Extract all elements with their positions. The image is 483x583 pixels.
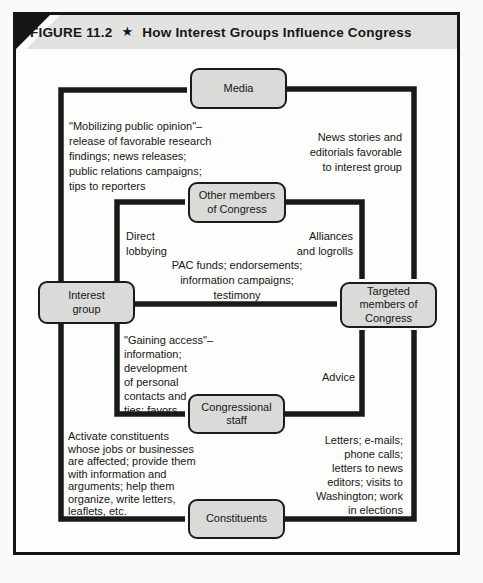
node-interest-group: Interest group [38, 281, 135, 324]
label-pac-funds: PAC funds; endorsements; information cam… [132, 258, 342, 303]
label-gaining-access: "Gaining access"– information; developme… [124, 333, 213, 417]
node-media: Media [190, 68, 287, 109]
figure-11-2: FIGURE 11.2 ★ How Interest Groups Influe… [0, 0, 483, 583]
label-alliances-logrolls: Alliances and logrolls [297, 229, 353, 259]
label-activate-constituents: Activate constituents whose jobs or busi… [68, 430, 196, 518]
node-targeted-members: Targeted members of Congress [340, 282, 437, 328]
label-news-stories: News stories and editorials favorable to… [310, 130, 402, 175]
label-direct-lobbying: Direct lobbying [126, 229, 167, 259]
label-mobilizing-public-opinion: "Mobilizing public opinion"– release of … [69, 119, 211, 194]
node-constituents: Constituents [188, 499, 285, 539]
label-letters-emails: Letters; e-mails; phone calls; letters t… [316, 433, 403, 517]
label-advice: Advice [322, 370, 355, 385]
